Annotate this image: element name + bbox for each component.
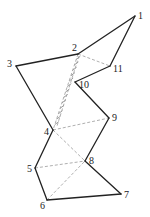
diagonal-4-9 [53,118,109,130]
edge-6-7 [47,194,121,200]
vertex-label-3: 3 [7,58,12,69]
edge-5-6 [35,168,47,200]
hatched-triangle [55,56,80,126]
vertex-label-2: 2 [72,42,77,53]
diagonal-6-8 [47,161,85,200]
vertex-label-4: 4 [44,126,49,137]
diagonal-4-8 [53,130,85,161]
edge-3-4 [16,66,53,130]
vertex-label-1: 1 [138,10,143,21]
vertex-label-7: 7 [124,189,129,200]
vertex-label-10: 10 [79,79,89,90]
vertex-label-11: 11 [113,63,123,74]
hatch-edge [57,56,79,126]
diagonal-2-4 [53,54,78,130]
diagonal-5-8 [35,161,85,168]
polygon-triangulation-diagram: 1234567891011 [0,0,150,217]
diagonal-2-11 [78,54,110,66]
vertex-label-5: 5 [27,163,32,174]
vertex-label-9: 9 [112,112,117,123]
edge-2-3 [16,54,78,66]
edge-11-1 [110,16,135,66]
vertex-label-8: 8 [89,155,94,166]
vertex-label-6: 6 [40,200,45,211]
edge-1-2 [78,16,135,54]
